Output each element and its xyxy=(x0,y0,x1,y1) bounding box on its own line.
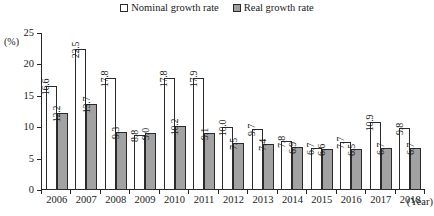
y-tick-label: 10 xyxy=(24,120,35,133)
x-tick xyxy=(159,190,160,194)
open-square-icon xyxy=(120,4,128,12)
x-tick-label-2018: 2018 xyxy=(400,193,421,206)
bar-value-label: 8.8 xyxy=(129,130,140,142)
bar-group-2013: 9.77.42013 xyxy=(248,33,277,190)
bar-value-label: 7.8 xyxy=(276,136,287,148)
bar-value-label: 22.5 xyxy=(70,41,81,58)
bar-real-2010[interactable]: 10.2 xyxy=(175,126,186,190)
bar-value-label: 17.9 xyxy=(188,70,199,87)
y-tick-15: 15 xyxy=(37,96,41,97)
bar-value-label: 7.4 xyxy=(257,139,268,151)
bar-value-label: 9.1 xyxy=(199,128,210,140)
bar-nominal-2018[interactable]: 9.8 xyxy=(399,128,410,190)
plot-area: 0510152025 16.612.2200622.513.7200717.89… xyxy=(41,33,425,190)
bar-group-2009: 8.89.02009 xyxy=(130,33,159,190)
bar-value-label: 6.7 xyxy=(375,143,386,155)
x-tick xyxy=(129,190,130,194)
x-tick-label-2009: 2009 xyxy=(135,193,156,206)
y-tick-label: 20 xyxy=(24,57,35,70)
bar-real-2014[interactable]: 6.9 xyxy=(292,147,303,190)
bar-nominal-2006[interactable]: 16.6 xyxy=(46,86,57,190)
bar-real-2011[interactable]: 9.1 xyxy=(204,133,215,190)
bar-group-2018: 9.86.72018 xyxy=(396,33,425,190)
bar-value-label: 6.5 xyxy=(346,144,357,156)
bar-value-label: 9.8 xyxy=(394,124,405,136)
chart-page: Nominal growth rate Real growth rate (%)… xyxy=(0,0,434,216)
chart-legend: Nominal growth rate Real growth rate xyxy=(0,1,434,14)
y-tick-10: 10 xyxy=(37,127,41,128)
bar-group-2012: 10.07.52012 xyxy=(219,33,248,190)
y-tick-label: 15 xyxy=(24,89,35,102)
x-tick-label-2013: 2013 xyxy=(252,193,273,206)
legend-item-nominal: Nominal growth rate xyxy=(120,1,218,14)
filled-square-icon xyxy=(233,4,241,12)
legend-label-nominal: Nominal growth rate xyxy=(131,1,218,14)
y-tick-5: 5 xyxy=(37,159,41,160)
bar-real-2008[interactable]: 9.3 xyxy=(116,132,127,190)
legend-item-real: Real growth rate xyxy=(233,1,314,14)
bar-real-2009[interactable]: 9.0 xyxy=(145,133,156,190)
y-axis-unit-label: (%) xyxy=(4,36,19,47)
bar-value-label: 6.7 xyxy=(305,143,316,155)
x-tick-label-2014: 2014 xyxy=(282,193,303,206)
x-tick xyxy=(70,190,71,194)
x-tick-label-2012: 2012 xyxy=(223,193,244,206)
bar-group-2017: 10.96.72017 xyxy=(366,33,395,190)
bar-value-label: 9.3 xyxy=(110,127,121,139)
bar-group-2016: 7.76.52016 xyxy=(337,33,366,190)
y-tick-20: 20 xyxy=(37,64,41,65)
bar-real-2017[interactable]: 6.7 xyxy=(381,148,392,190)
x-tick xyxy=(336,190,337,194)
y-tick-label: 25 xyxy=(24,26,35,39)
bar-value-label: 7.5 xyxy=(228,138,239,150)
x-tick xyxy=(218,190,219,194)
bar-value-label: 9.7 xyxy=(246,124,257,136)
bar-groups: 16.612.2200622.513.7200717.89.320088.89.… xyxy=(42,33,425,190)
bar-value-label: 6.9 xyxy=(287,142,298,154)
x-tick xyxy=(247,190,248,194)
bar-nominal-2007[interactable]: 22.5 xyxy=(75,49,86,190)
bar-value-label: 7.7 xyxy=(335,137,346,149)
bar-group-2015: 6.76.62015 xyxy=(307,33,336,190)
x-tick-label-2011: 2011 xyxy=(194,193,215,206)
x-tick-label-2016: 2016 xyxy=(341,193,362,206)
bar-nominal-2012[interactable]: 10.0 xyxy=(222,127,233,190)
bar-group-2008: 17.89.32008 xyxy=(101,33,130,190)
bar-value-label: 9.0 xyxy=(140,129,151,141)
bar-value-label: 16.6 xyxy=(40,78,51,95)
x-tick-label-2006: 2006 xyxy=(46,193,67,206)
bar-value-label: 10.9 xyxy=(364,114,375,131)
bar-real-2016[interactable]: 6.5 xyxy=(351,149,362,190)
x-tick-label-2010: 2010 xyxy=(164,193,185,206)
bar-value-label: 10.2 xyxy=(169,119,180,136)
bar-real-2012[interactable]: 7.5 xyxy=(233,143,244,190)
bar-value-label: 17.8 xyxy=(99,71,110,88)
bar-value-label: 6.7 xyxy=(405,143,416,155)
bar-real-2015[interactable]: 6.6 xyxy=(322,149,333,190)
x-tick xyxy=(188,190,189,194)
bar-real-2018[interactable]: 6.7 xyxy=(410,148,421,190)
bar-value-label: 10.0 xyxy=(217,120,228,137)
bar-real-2013[interactable]: 7.4 xyxy=(263,144,274,190)
bar-value-label: 12.2 xyxy=(51,106,62,123)
x-tick xyxy=(395,190,396,194)
x-tick xyxy=(277,190,278,194)
x-tick xyxy=(41,190,42,194)
x-tick xyxy=(424,190,425,194)
x-tick-label-2017: 2017 xyxy=(370,193,391,206)
bar-value-label: 6.6 xyxy=(316,144,327,156)
x-tick-label-2008: 2008 xyxy=(105,193,126,206)
x-tick xyxy=(306,190,307,194)
bar-real-2006[interactable]: 12.2 xyxy=(57,113,68,190)
bar-real-2007[interactable]: 13.7 xyxy=(86,104,97,190)
bar-group-2007: 22.513.72007 xyxy=(71,33,100,190)
bar-value-label: 17.8 xyxy=(158,71,169,88)
bar-nominal-2017[interactable]: 10.9 xyxy=(370,122,381,190)
bar-nominal-2009[interactable]: 8.8 xyxy=(134,135,145,190)
bar-group-2006: 16.612.22006 xyxy=(42,33,71,190)
bar-group-2010: 17.810.22010 xyxy=(160,33,189,190)
bar-group-2014: 7.86.92014 xyxy=(278,33,307,190)
y-tick-25: 25 xyxy=(37,33,41,34)
x-tick xyxy=(365,190,366,194)
x-tick-label-2007: 2007 xyxy=(76,193,97,206)
